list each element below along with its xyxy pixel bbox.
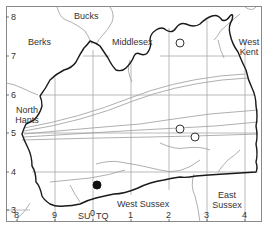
region-label-berks: Berks xyxy=(28,37,51,47)
distribution-map: Bucks Berks Middlesex West Kent North Ha… xyxy=(0,0,267,232)
y-tick-5: 5 xyxy=(11,128,16,138)
y-tick-4: 4 xyxy=(11,167,16,177)
y-tick-7: 7 xyxy=(11,51,16,61)
region-label-bucks: Bucks xyxy=(74,11,99,21)
y-tick-6: 6 xyxy=(11,90,16,100)
y-tick-8: 8 xyxy=(11,12,16,22)
grid-zone-su: SU xyxy=(78,211,91,221)
x-tick-3: 3 xyxy=(204,210,209,220)
record-marker-filled-1 xyxy=(93,181,101,189)
x-tick-2: 2 xyxy=(166,210,171,220)
record-marker-open-1 xyxy=(176,39,184,47)
x-tick-1: 1 xyxy=(128,210,133,220)
grid-zone-tq: TQ xyxy=(96,211,109,221)
x-tick-9: 9 xyxy=(52,210,57,220)
region-label-north-hants: North Hants xyxy=(12,105,42,125)
region-label-east-sussex: East Sussex xyxy=(209,190,245,210)
region-label-middlesex: Middlesex xyxy=(112,37,153,47)
record-marker-open-3 xyxy=(191,133,199,141)
x-tick-4: 4 xyxy=(242,210,247,220)
region-label-west-kent: West Kent xyxy=(234,37,264,57)
record-marker-open-2 xyxy=(176,125,184,133)
region-label-west-sussex: West Sussex xyxy=(117,199,169,209)
x-tick-8: 8 xyxy=(14,210,19,220)
x-tick-0: 0 xyxy=(90,208,95,218)
